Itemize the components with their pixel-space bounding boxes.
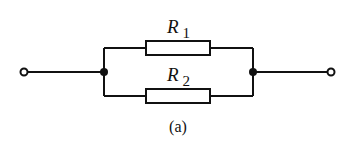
r1-label: R1 — [166, 16, 190, 41]
right-node — [249, 68, 257, 76]
caption: (a) — [169, 118, 187, 136]
r2-label: R2 — [166, 64, 190, 89]
resistor-r2 — [146, 89, 210, 103]
left-node — [100, 68, 108, 76]
circuit-diagram: R1 R2 (a) — [0, 0, 354, 143]
resistor-r1 — [146, 41, 210, 55]
left-terminal — [21, 69, 28, 76]
right-terminal — [328, 69, 335, 76]
